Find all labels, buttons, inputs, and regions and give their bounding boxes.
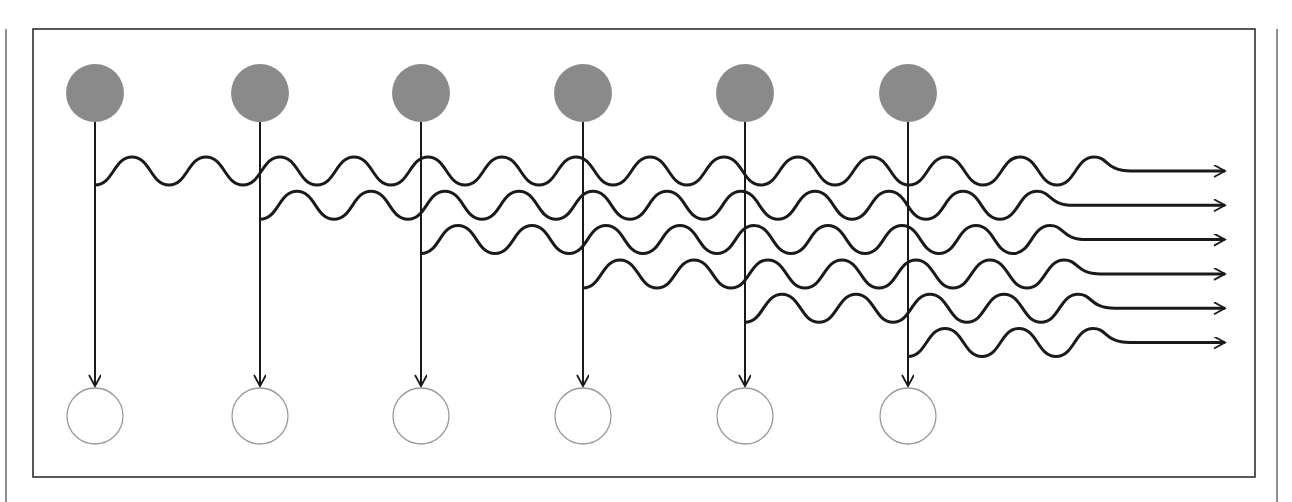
wave-group [95,157,1225,357]
node-group [66,64,937,444]
photon-emission-diagram [0,0,1292,502]
excited-atom-5 [716,64,774,122]
ground-atom-6 [880,388,936,444]
excited-atom-3 [392,64,450,122]
ground-atom-2 [232,388,288,444]
ground-atom-1 [67,388,123,444]
photon-wave-2 [260,191,1225,219]
excited-atom-6 [879,64,937,122]
excited-atom-2 [231,64,289,122]
photon-wave-1 [95,157,1225,185]
ground-atom-5 [717,388,773,444]
ground-atom-3 [393,388,449,444]
photon-wave-3 [421,226,1225,254]
ground-atom-4 [555,388,611,444]
photon-wave-4 [583,260,1225,288]
excited-atom-4 [554,64,612,122]
photon-wave-5 [745,294,1225,322]
photon-wave-6 [908,329,1225,357]
excited-atom-1 [66,64,124,122]
